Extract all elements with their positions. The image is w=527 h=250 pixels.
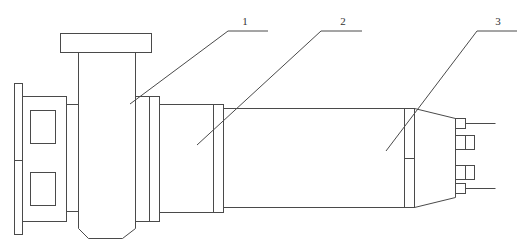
upper-terminal <box>456 119 466 129</box>
motor-end-cap <box>415 109 456 208</box>
pump-diagram: 1 2 3 <box>0 0 527 250</box>
shaft-connector <box>67 105 79 212</box>
upper-window <box>31 111 56 144</box>
callout-label-2: 2 <box>340 15 346 27</box>
discharge-flange <box>61 34 152 53</box>
callout-leader-2 <box>197 31 362 145</box>
terminal-block <box>456 119 496 194</box>
intermediate-housing <box>160 105 224 213</box>
lower-window <box>31 173 56 206</box>
lower-terminal <box>456 184 466 194</box>
bearing-housing <box>23 97 67 222</box>
motor-body <box>224 109 415 208</box>
callout-leader-1 <box>130 31 268 104</box>
callout-label-1: 1 <box>242 15 248 27</box>
ring-flange <box>136 97 160 222</box>
pump-casing <box>79 53 136 239</box>
callout-leader-3 <box>386 31 517 151</box>
callout-label-3: 3 <box>495 15 501 27</box>
left-end-plate <box>15 84 23 235</box>
